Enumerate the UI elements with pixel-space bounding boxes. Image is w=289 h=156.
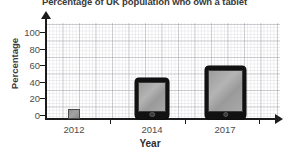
chart-title: Percentage of UK population who own a ta… [0, 0, 289, 7]
x-tick-label-2012: 2012 [54, 124, 94, 135]
y-tick-mark-40 [40, 82, 46, 83]
bar-2014 [135, 78, 169, 119]
y-tick-mark-60 [40, 65, 46, 66]
x-axis-title: Year [110, 138, 190, 149]
y-tick-label-0: 0 [6, 110, 40, 121]
tablet-screen-2017 [208, 70, 243, 112]
y-tick-mark-80 [40, 49, 46, 50]
tablet-home-button-icon-2017 [223, 112, 229, 118]
y-axis-title: Percentage [9, 26, 20, 102]
x-tick-mark-3 [259, 118, 260, 124]
x-axis-arrow-icon [275, 114, 283, 124]
y-tick-mark-0 [40, 115, 46, 116]
x-tick-label-2014: 2014 [132, 124, 172, 135]
bar-2012 [68, 109, 80, 119]
chart-container: Percentage of UK population who own a ta… [0, 0, 289, 156]
y-tick-mark-100 [40, 32, 46, 33]
x-tick-mark-2 [185, 118, 186, 124]
y-axis-arrow-icon [41, 11, 51, 19]
tablet-screen-2014 [138, 82, 166, 112]
x-tick-mark-1 [110, 118, 111, 124]
x-tick-label-2017: 2017 [205, 124, 245, 135]
y-tick-mark-20 [40, 98, 46, 99]
tablet-home-button-icon-2014 [149, 112, 155, 118]
bar-2017 [205, 66, 246, 119]
